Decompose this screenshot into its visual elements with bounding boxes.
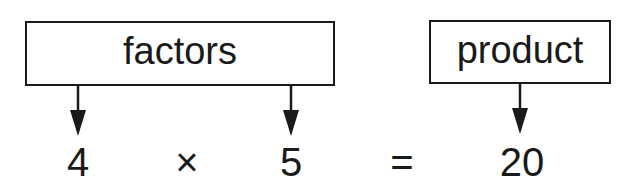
arrow-to-factor1 bbox=[70, 85, 86, 136]
times-sign: × bbox=[175, 142, 198, 182]
product-value: 20 bbox=[500, 142, 545, 182]
arrow-to-product bbox=[512, 83, 528, 134]
equals-sign: = bbox=[390, 142, 413, 182]
factor-1: 4 bbox=[67, 142, 89, 182]
arrow-to-factor2 bbox=[283, 85, 299, 136]
factor-2: 5 bbox=[280, 142, 302, 182]
